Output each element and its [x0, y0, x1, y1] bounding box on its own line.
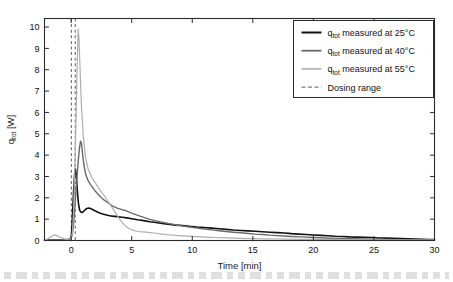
y-tick-label-5: 5: [34, 129, 39, 139]
y-tick-label-1: 1: [34, 214, 39, 224]
legend-label-1: qtot measured at 25°C: [328, 28, 416, 39]
x-tick-label-2: 10: [187, 245, 197, 255]
x-tick-label-6: 30: [429, 245, 439, 255]
x-tick-label-1: 5: [129, 245, 134, 255]
y-tick-label-4: 4: [34, 150, 39, 160]
y-tick-label-0: 0: [34, 236, 39, 246]
y-tick-label-6: 6: [34, 108, 39, 118]
figure-caption-blurred: [4, 272, 449, 279]
y-tick-label-10: 10: [29, 22, 39, 32]
x-tick-label-5: 25: [369, 245, 379, 255]
y-tick-label-7: 7: [34, 86, 39, 96]
y-tick-label-9: 9: [34, 44, 39, 54]
legend-label-4: Dosing range: [328, 83, 382, 93]
legend-label-3: qtot measured at 55°C: [328, 64, 416, 75]
y-tick-label-8: 8: [34, 65, 39, 75]
y-tick-label-3: 3: [34, 172, 39, 182]
x-tick-label-4: 20: [308, 245, 318, 255]
x-tick-label-0: 0: [69, 245, 74, 255]
chart-canvas: 051015202530012345678910Time [min]qtot […: [0, 0, 453, 282]
figure-container: 051015202530012345678910Time [min]qtot […: [0, 0, 453, 282]
legend-label-2: qtot measured at 40°C: [328, 46, 416, 57]
legend: qtot measured at 25°Cqtot measured at 40…: [294, 21, 434, 98]
x-axis-title: Time [min]: [218, 260, 262, 271]
y-axis-title: qtot [W]: [5, 115, 17, 144]
y-tick-label-2: 2: [34, 193, 39, 203]
x-tick-label-3: 15: [248, 245, 258, 255]
